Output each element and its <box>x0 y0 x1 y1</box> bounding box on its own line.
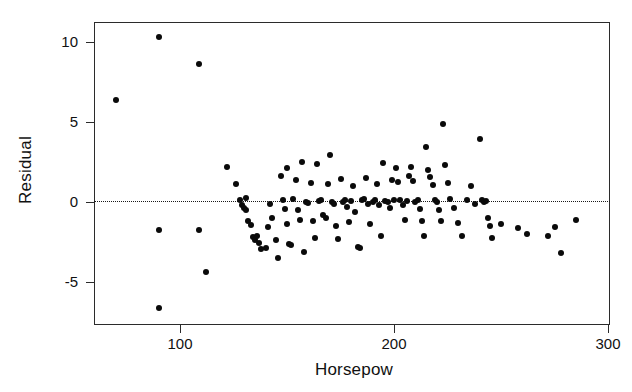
scatter-point <box>335 236 341 242</box>
scatter-point <box>252 237 258 243</box>
scatter-point <box>378 233 384 239</box>
scatter-point <box>445 180 451 186</box>
scatter-point <box>282 206 288 212</box>
scatter-point <box>397 197 403 203</box>
scatter-point <box>333 223 339 229</box>
scatter-point <box>288 242 294 248</box>
scatter-point <box>391 197 397 203</box>
scatter-point <box>417 206 423 212</box>
scatter-point <box>325 181 331 187</box>
scatter-point <box>402 217 408 223</box>
scatter-point <box>487 223 493 229</box>
scatter-point <box>312 235 318 241</box>
scatter-point <box>269 215 275 221</box>
scatter-point <box>290 196 296 202</box>
scatter-point <box>464 197 470 203</box>
scatter-point <box>400 202 406 208</box>
scatter-point <box>459 233 465 239</box>
scatter-point <box>421 233 427 239</box>
scatter-point <box>310 218 316 224</box>
scatter-point <box>524 231 530 237</box>
scatter-point <box>479 197 485 203</box>
scatter-point <box>483 198 489 204</box>
scatter-point <box>203 269 209 275</box>
scatter-point <box>389 177 395 183</box>
scatter-point <box>299 159 305 165</box>
scatter-point <box>258 246 264 252</box>
scatter-point <box>342 197 348 203</box>
scatter-point <box>278 173 284 179</box>
scatter-point <box>382 198 388 204</box>
chart-canvas: -50510 100200300 Residual Horsepow <box>0 0 632 392</box>
scatter-point <box>436 207 442 213</box>
scatter-point <box>286 241 292 247</box>
scatter-point <box>372 197 378 203</box>
scatter-point <box>477 136 483 142</box>
scatter-point <box>455 220 461 226</box>
scatter-point <box>297 217 303 223</box>
scatter-point <box>293 177 299 183</box>
scatter-point <box>408 164 414 170</box>
scatter-point <box>410 178 416 184</box>
scatter-point <box>423 144 429 150</box>
scatter-point <box>432 197 438 203</box>
scatter-point <box>320 212 326 218</box>
scatter-point <box>275 255 281 261</box>
scatter-point <box>308 180 314 186</box>
scatter-point <box>254 233 260 239</box>
scatter-point <box>237 197 243 203</box>
scatter-point <box>419 218 425 224</box>
scatter-point <box>344 204 350 210</box>
scatter-point <box>370 199 376 205</box>
scatter-point <box>545 233 551 239</box>
scatter-point <box>323 215 329 221</box>
scatter-point <box>196 61 202 67</box>
scatter-point <box>156 34 162 40</box>
scatter-point <box>314 161 320 167</box>
scatter-point <box>363 175 369 181</box>
scatter-point <box>263 245 269 251</box>
scatter-point <box>365 201 371 207</box>
scatter-point <box>316 198 322 204</box>
scatter-point <box>489 235 495 241</box>
scatter-points <box>0 0 632 392</box>
scatter-point <box>346 219 352 225</box>
scatter-point <box>357 245 363 251</box>
scatter-point <box>451 205 457 211</box>
scatter-point <box>267 201 273 207</box>
scatter-point <box>485 215 491 221</box>
scatter-point <box>425 167 431 173</box>
scatter-point <box>284 165 290 171</box>
scatter-point <box>318 197 324 203</box>
scatter-point <box>224 164 230 170</box>
scatter-point <box>355 244 361 250</box>
scatter-point <box>442 162 448 168</box>
scatter-point <box>434 199 440 205</box>
scatter-point <box>243 207 249 213</box>
scatter-point <box>156 305 162 311</box>
scatter-point <box>303 199 309 205</box>
scatter-point <box>472 201 478 207</box>
scatter-point <box>284 221 290 227</box>
scatter-point <box>248 222 254 228</box>
scatter-point <box>412 199 418 205</box>
scatter-point <box>280 197 286 203</box>
scatter-point <box>243 195 249 201</box>
scatter-point <box>305 200 311 206</box>
scatter-point <box>359 197 365 203</box>
scatter-point <box>440 121 446 127</box>
scatter-point <box>233 181 239 187</box>
scatter-point <box>350 183 356 189</box>
y-axis-title: Residual <box>16 100 36 240</box>
scatter-point <box>295 207 301 213</box>
scatter-point <box>352 209 358 215</box>
scatter-point <box>348 198 354 204</box>
scatter-point <box>376 202 382 208</box>
scatter-point <box>340 199 346 205</box>
scatter-point <box>393 165 399 171</box>
scatter-point <box>273 237 279 243</box>
scatter-point <box>438 218 444 224</box>
scatter-point <box>241 205 247 211</box>
scatter-point <box>361 196 367 202</box>
scatter-point <box>387 205 393 211</box>
